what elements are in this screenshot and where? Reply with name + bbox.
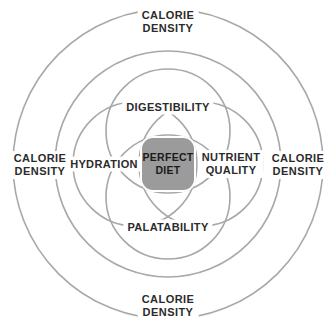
outer-label-calorie-density-top: CALORIE DENSITY [138,8,199,36]
outer-label-bottom-line2: DENSITY [142,306,195,319]
outer-label-left-line2: DENSITY [14,165,67,178]
inner-label-digestibility: DIGESTIBILITY [122,100,213,115]
outer-label-right-line2: DENSITY [272,165,325,178]
inner-label-nutrient-quality-line1: NUTRIENT [202,151,260,164]
outer-label-calorie-density-left: CALORIE DENSITY [10,151,71,179]
outer-label-top-line1: CALORIE [142,9,195,22]
inner-label-hydration: HYDRATION [66,157,142,172]
inner-label-hydration-line1: HYDRATION [70,158,138,171]
outer-label-calorie-density-bottom: CALORIE DENSITY [138,292,199,320]
center-node-line2: DIET [155,164,180,177]
inner-label-nutrient-quality: NUTRIENT QUALITY [198,150,264,178]
center-node-perfect-diet: PERFECT DIET [140,136,196,192]
outer-label-top-line2: DENSITY [142,22,195,35]
perfect-diet-diagram: CALORIE DENSITY CALORIE DENSITY CALORIE … [0,0,336,332]
inner-label-nutrient-quality-line2: QUALITY [202,164,260,177]
outer-label-calorie-density-right: CALORIE DENSITY [268,151,329,179]
inner-label-palatability: PALATABILITY [123,220,212,235]
outer-label-bottom-line1: CALORIE [142,293,195,306]
inner-label-digestibility-line1: DIGESTIBILITY [126,101,209,114]
outer-label-left-line1: CALORIE [14,152,67,165]
inner-label-palatability-line1: PALATABILITY [127,221,208,234]
outer-label-right-line1: CALORIE [272,152,325,165]
center-node-line1: PERFECT [142,151,193,164]
